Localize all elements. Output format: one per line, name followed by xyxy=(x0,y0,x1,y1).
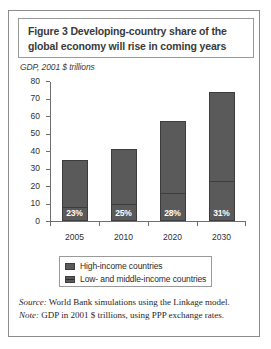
bar-data-label: 28% xyxy=(161,208,185,218)
bar-segment-low-middle-income: 25% xyxy=(111,204,137,222)
legend-item-high-income: High-income countries xyxy=(65,260,211,272)
y-axis-tick: 70 xyxy=(46,99,50,100)
note-text: GDP in 2001 $ trillions, using PPP excha… xyxy=(39,310,224,320)
figure-root: Figure 3 Developing-country share of the… xyxy=(0,0,271,349)
bar-2010: 25% xyxy=(111,149,137,221)
chart-subtitle: GDP, 2001 $ trillions xyxy=(20,62,95,72)
x-axis-label: 2010 xyxy=(104,232,144,242)
x-axis-tick xyxy=(197,222,198,226)
figure-notes: Source: World Bank simulations using the… xyxy=(19,296,253,321)
x-axis-label: 2030 xyxy=(202,232,242,242)
source-text: World Bank simulations using the Linkage… xyxy=(47,297,230,307)
y-axis-tick-label: 80 xyxy=(18,76,40,86)
y-axis-tick: 80 xyxy=(46,81,50,82)
x-axis-label: 2020 xyxy=(153,232,193,242)
source-keyword: Source: xyxy=(19,297,47,307)
chart-legend: High-income countries Low- and middle-in… xyxy=(59,256,212,287)
y-axis-tick-label: 50 xyxy=(18,128,40,138)
legend-swatch-icon xyxy=(65,263,75,270)
bar-2030: 31% xyxy=(209,92,235,222)
chart-axes: 01020304050607080 23%25%28%31% 200520102… xyxy=(50,82,246,222)
y-axis-tick-label: 0 xyxy=(18,216,40,226)
page-title: Figure 3 Developing-country share of the… xyxy=(28,24,244,53)
y-axis-line xyxy=(50,82,51,222)
x-axis-tick xyxy=(148,222,149,226)
bar-segment-low-middle-income: 23% xyxy=(62,207,88,221)
legend-swatch-icon xyxy=(65,276,75,283)
figure-title-box: Figure 3 Developing-country share of the… xyxy=(18,18,254,58)
note-keyword: Note: xyxy=(19,310,39,320)
bar-2020: 28% xyxy=(160,121,186,221)
x-axis-tick xyxy=(99,222,100,226)
chart-plot-area: 01020304050607080 23%25%28%31% 200520102… xyxy=(20,78,252,248)
y-axis-tick: 60 xyxy=(46,116,50,117)
bar-data-label: 31% xyxy=(210,208,234,218)
y-axis-tick: 10 xyxy=(46,204,50,205)
bar-2005: 23% xyxy=(62,160,88,221)
x-axis-label: 2005 xyxy=(55,232,95,242)
y-axis-tick: 50 xyxy=(46,134,50,135)
y-axis-tick-label: 70 xyxy=(18,93,40,103)
y-axis-tick: 20 xyxy=(46,186,50,187)
x-axis-tick xyxy=(50,222,51,226)
x-axis-tick xyxy=(245,222,246,226)
y-axis-tick-label: 20 xyxy=(18,181,40,191)
y-axis-tick-label: 30 xyxy=(18,163,40,173)
bar-data-label: 23% xyxy=(63,208,87,218)
legend-item-low-middle-income: Low- and middle-income countries xyxy=(65,273,211,285)
y-axis-tick-label: 10 xyxy=(18,198,40,208)
y-axis-tick-label: 60 xyxy=(18,111,40,121)
source-note: Source: World Bank simulations using the… xyxy=(19,296,253,309)
definition-note: Note: GDP in 2001 $ trillions, using PPP… xyxy=(19,309,253,322)
y-axis-tick-label: 40 xyxy=(18,146,40,156)
legend-label: High-income countries xyxy=(80,261,162,271)
bar-segment-low-middle-income: 31% xyxy=(209,181,235,221)
y-axis-tick: 40 xyxy=(46,151,50,152)
legend-label: Low- and middle-income countries xyxy=(80,274,206,284)
bar-segment-low-middle-income: 28% xyxy=(160,193,186,221)
y-axis-tick: 30 xyxy=(46,169,50,170)
bar-data-label: 25% xyxy=(112,208,136,218)
